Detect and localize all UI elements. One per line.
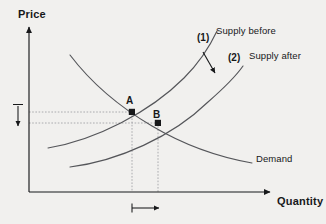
point-label-a: A — [126, 96, 133, 106]
curve-tag-two: (2) — [228, 53, 240, 63]
shift-arrow — [203, 52, 215, 73]
curves — [48, 31, 252, 167]
price-change-arrow — [13, 105, 23, 127]
supply-demand-figure: Price Quantity Supply before Supply afte… — [0, 0, 326, 224]
point-marker-a — [129, 109, 135, 115]
point-marker-b — [155, 120, 161, 126]
curve-label-supply-before: Supply before — [216, 26, 276, 36]
curve-label-supply-after: Supply after — [249, 51, 301, 61]
y-axis-label: Price — [18, 9, 46, 20]
quantity-change-arrow — [132, 204, 159, 213]
point-label-b: B — [153, 110, 160, 120]
curve-demand — [70, 55, 252, 163]
curve-label-demand: Demand — [256, 154, 293, 164]
guide-lines — [29, 112, 158, 192]
curve-supply-before — [48, 31, 217, 148]
figure-canvas — [0, 0, 326, 224]
x-axis-label: Quantity — [277, 196, 323, 207]
curve-tag-one: (1) — [197, 33, 209, 43]
